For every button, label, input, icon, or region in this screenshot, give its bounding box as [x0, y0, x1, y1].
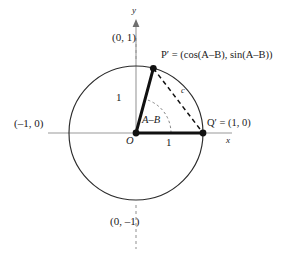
chord-label: c [181, 86, 185, 95]
y-axis-label: y [132, 6, 136, 15]
unit-circle-figure: y x (0, 1) (0, –1) (–1, 0) Q′ = (1, 0) P… [0, 0, 305, 257]
bottom-point-label: (0, –1) [110, 216, 139, 227]
top-point-label: (0, 1) [112, 32, 136, 43]
q-prime-point [200, 130, 207, 137]
x-axis-label: x [226, 136, 230, 145]
p-prime-point [150, 65, 157, 72]
origin-label: O [126, 136, 134, 147]
q-prime-label: Q′ = (1, 0) [207, 118, 251, 129]
angle-label: A–B [142, 115, 160, 126]
radius-horizontal-length-label: 1 [166, 137, 172, 148]
left-point-label: (–1, 0) [14, 118, 43, 129]
figure-canvas [0, 0, 305, 257]
p-prime-label: P′ = (cos(A–B), sin(A–B)) [161, 50, 272, 61]
y-axis-arrow-icon [133, 19, 140, 27]
radius-vertical-length-label: 1 [116, 92, 122, 103]
chord-line [153, 68, 203, 133]
